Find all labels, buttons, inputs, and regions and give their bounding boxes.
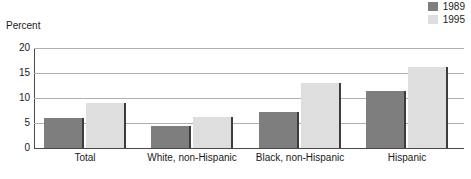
bar-1989-total	[44, 118, 84, 148]
x-label-black-non-hispanic: Black, non-Hispanic	[256, 152, 344, 163]
bar-1989-hispanic	[366, 91, 406, 148]
bar-1995-black-non-hispanic	[301, 83, 341, 148]
bar-1995-total	[86, 103, 126, 148]
gridline-15	[34, 73, 464, 74]
y-tick-label-20: 20	[0, 42, 30, 53]
x-label-total: Total	[74, 152, 95, 163]
x-axis-category-labels: TotalWhite, non-HispanicBlack, non-Hispa…	[34, 152, 464, 172]
bar-1989-black-non-hispanic	[259, 112, 299, 148]
y-tick-label-5: 5	[0, 117, 30, 128]
bar-1995-hispanic	[408, 67, 448, 148]
bar-1995-white-non-hispanic	[193, 117, 233, 148]
y-tick-label-10: 10	[0, 92, 30, 103]
x-label-white-non-hispanic: White, non-Hispanic	[147, 152, 236, 163]
y-axis-tick-labels: 05101520	[0, 0, 30, 179]
bars-and-gridlines	[34, 48, 464, 148]
bar-1989-white-non-hispanic	[151, 126, 191, 148]
y-tick-label-15: 15	[0, 67, 30, 78]
gridline-20	[34, 48, 464, 49]
x-label-hispanic: Hispanic	[388, 152, 426, 163]
gridline-0	[34, 148, 464, 149]
y-tick-label-0: 0	[0, 142, 30, 153]
chart-plot-area: 05101520 TotalWhite, non-HispanicBlack, …	[0, 0, 471, 179]
